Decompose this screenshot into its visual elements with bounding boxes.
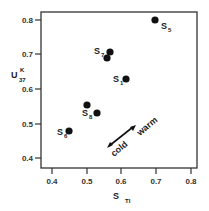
x-axis: 0.4 0.5 0.6 0.7 0.8: [46, 168, 197, 186]
svg-text:37: 37: [19, 77, 26, 83]
svg-text:S: S: [57, 127, 63, 137]
svg-text:5: 5: [168, 27, 172, 33]
x-tick-label: 0.6: [115, 177, 127, 186]
y-tick-label: 0.6: [22, 85, 34, 94]
y-tick-label: 0.7: [22, 50, 34, 59]
point-s5: [151, 16, 158, 23]
x-tick-label: 0.7: [150, 177, 162, 186]
svg-text:K: K: [20, 67, 25, 73]
point-s8b: [93, 109, 100, 116]
svg-text:S: S: [82, 108, 88, 118]
y-tick-label: 0.4: [22, 154, 34, 163]
x-axis-label: S TI: [113, 191, 131, 204]
x-tick-label: 0.8: [185, 177, 197, 186]
warm-label: warm: [134, 115, 159, 138]
point-s1: [122, 75, 129, 82]
point-s7b: [103, 54, 110, 61]
y-axis-label: U K 37: [11, 67, 26, 83]
svg-text:U: U: [11, 70, 18, 80]
data-points: [65, 16, 158, 134]
svg-text:S: S: [113, 74, 119, 84]
y-tick-label: 0.5: [22, 120, 34, 129]
svg-text:TI: TI: [125, 198, 131, 204]
svg-text:S: S: [161, 21, 167, 31]
scatter-chart: 0.8 0.7 0.6 0.5 0.4 0.4 0.5 0.6 0.7 0.8 …: [0, 0, 209, 211]
cold-label: cold: [109, 139, 130, 159]
x-tick-label: 0.5: [81, 177, 93, 186]
svg-text:S: S: [94, 46, 100, 56]
svg-text:8: 8: [89, 114, 93, 120]
y-tick-label: 0.8: [22, 16, 34, 25]
y-axis: 0.8 0.7 0.6 0.5 0.4: [22, 16, 41, 163]
svg-text:S: S: [113, 191, 119, 201]
x-tick-label: 0.4: [46, 177, 58, 186]
cold-warm-arrow: cold warm: [107, 115, 159, 159]
